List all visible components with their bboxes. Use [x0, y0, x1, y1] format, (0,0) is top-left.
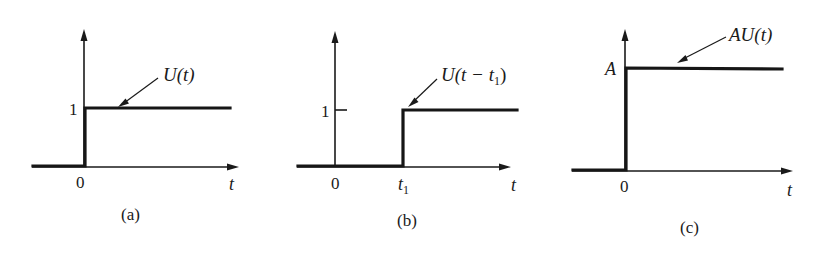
- panel-b-y-axis-arrow-icon: [332, 31, 339, 43]
- panel-a-pointer-arrowhead-icon: [118, 99, 129, 108]
- panel-c-step-signal: [573, 68, 782, 170]
- panel-c-level-label: A: [604, 59, 617, 79]
- panel-a-unit-step: U(t) 1 0 t (a): [32, 29, 239, 224]
- panel-b-step-signal: [298, 110, 517, 166]
- panel-a-origin-label: 0: [76, 173, 85, 192]
- panel-b-origin-label: 0: [331, 174, 340, 193]
- panel-b-step-time-subscript: 1: [403, 183, 409, 197]
- panel-b-label-pointer: [413, 79, 437, 102]
- step-function-figure: U(t) 1 0 t (a) U(t − t1) 1 0 t1 t (b): [0, 0, 822, 256]
- panel-a-step-signal: [33, 108, 230, 166]
- panel-c-pointer-arrowhead-icon: [677, 55, 688, 63]
- panel-c-label-pointer: [683, 37, 726, 59]
- panel-a-level-label: 1: [69, 100, 78, 119]
- panel-c-axis-label: t: [787, 180, 793, 200]
- panel-a-caption: (a): [121, 205, 140, 224]
- panel-c-caption: (c): [680, 218, 699, 237]
- panel-c-y-axis-arrow-icon: [622, 29, 629, 41]
- panel-a-axis-label: t: [229, 174, 235, 194]
- panel-b-function-label: U(t − t1): [441, 64, 506, 88]
- panel-b-delayed-step: U(t − t1) 1 0 t1 t (b): [297, 31, 517, 230]
- panel-b-function-label-close: ): [500, 64, 506, 86]
- panel-b-caption: (b): [397, 211, 417, 230]
- panel-a-x-axis-arrow-icon: [227, 164, 239, 171]
- panel-c-origin-label: 0: [620, 177, 629, 196]
- panel-b-step-time-label: t1: [398, 174, 409, 197]
- panel-a-function-label: U(t): [163, 64, 195, 86]
- panel-a-y-axis-arrow-icon: [81, 29, 88, 41]
- panel-c-x-axis-arrow-icon: [781, 168, 793, 175]
- panel-b-level-label: 1: [321, 102, 330, 121]
- panel-b-axis-label: t: [511, 175, 517, 195]
- panel-c-function-label: AU(t): [727, 24, 772, 46]
- panel-c-scaled-step: AU(t) A 0 t (c): [572, 24, 793, 237]
- panel-a-label-pointer: [124, 78, 158, 103]
- panel-b-function-label-main: U(t − t: [441, 64, 495, 86]
- panel-b-x-axis-arrow-icon: [499, 164, 511, 171]
